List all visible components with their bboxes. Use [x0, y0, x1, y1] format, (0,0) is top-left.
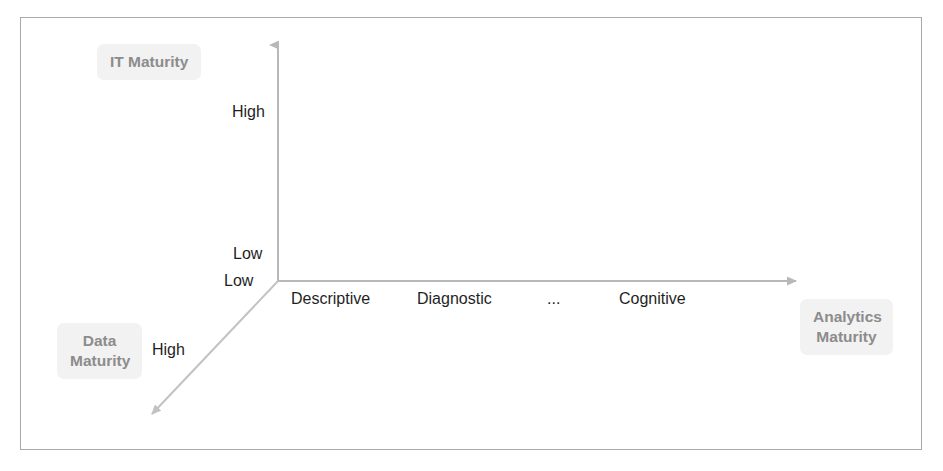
horizontal-axis-tick-descriptive: Descriptive	[291, 290, 370, 308]
horizontal-axis-tick-cognitive: Cognitive	[619, 290, 686, 308]
vertical-axis-tick-low: Low	[233, 245, 262, 263]
diagonal-axis-tick-high: High	[152, 341, 185, 359]
diagram-canvas: IT Maturity Data Maturity Analytics Matu…	[0, 0, 943, 471]
horizontal-axis-tick-ellipsis: ...	[547, 290, 560, 308]
axis-title-it-maturity: IT Maturity	[97, 44, 201, 80]
diagonal-axis-tick-low: Low	[224, 272, 253, 290]
axis-title-analytics-maturity: Analytics Maturity	[800, 299, 893, 355]
vertical-axis-tick-high: High	[232, 103, 265, 121]
axis-title-data-maturity: Data Maturity	[57, 323, 142, 379]
horizontal-axis-tick-diagnostic: Diagnostic	[417, 290, 492, 308]
